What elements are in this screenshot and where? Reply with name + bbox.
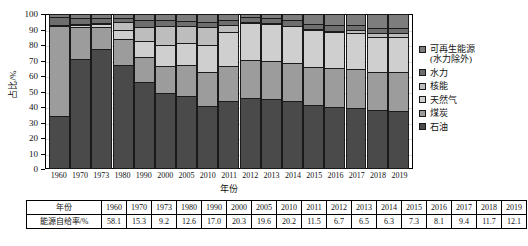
x-axis-tick-label: 2005 xyxy=(177,171,196,180)
x-axis-tick-label: 2017 xyxy=(347,171,366,180)
y-axis-tick-label: 90 xyxy=(29,25,38,34)
bar-segment xyxy=(389,37,408,71)
plot-area xyxy=(45,14,413,169)
bar-segment xyxy=(389,15,408,28)
table-cell: 6.3 xyxy=(377,215,402,229)
bar-segment xyxy=(262,24,281,61)
x-axis-tick-label: 2000 xyxy=(156,171,175,180)
bar-segment xyxy=(156,45,175,66)
legend-item-label: 石油 xyxy=(430,122,448,132)
legend-item-label: 水力 xyxy=(430,68,448,78)
bar-segment xyxy=(219,25,238,32)
bar-segment xyxy=(241,23,260,60)
bar-segment xyxy=(262,61,281,98)
table-cell: 2010 xyxy=(277,201,302,215)
x-axis-title: 年份 xyxy=(45,182,413,195)
bar-segment xyxy=(347,33,366,69)
y-axis-tick-label: 20 xyxy=(29,134,38,143)
bar-segment xyxy=(71,59,90,168)
table-cell: 2016 xyxy=(427,201,452,215)
x-axis-tick-label: 1960 xyxy=(49,171,68,180)
bar-column xyxy=(368,15,387,168)
bar-segment xyxy=(156,93,175,168)
bar-segment xyxy=(156,66,175,94)
bar-segment xyxy=(219,32,238,66)
chart-figure: 1009080706050403020100 占比/% 196019701973… xyxy=(0,0,528,246)
table-cell: 20.3 xyxy=(227,215,252,229)
bar-segment xyxy=(347,108,366,168)
table-row: 年份19601970197319801990200020052010201120… xyxy=(27,201,527,215)
bar-segment xyxy=(114,65,133,168)
bar-segment xyxy=(304,30,323,67)
bar-segment xyxy=(114,39,133,65)
bar-segment xyxy=(368,37,387,71)
y-axis-tick-mark xyxy=(41,169,45,170)
table-cell: 2000 xyxy=(227,201,252,215)
table-cell: 2011 xyxy=(302,201,327,215)
table-cell: 2018 xyxy=(477,201,502,215)
bar-segment xyxy=(114,30,133,39)
bar-column xyxy=(114,15,133,168)
table-cell: 20.2 xyxy=(277,215,302,229)
bar-segment xyxy=(198,15,217,22)
bar-column xyxy=(241,15,260,168)
legend-swatch-icon xyxy=(419,83,426,90)
table-cell: 19.6 xyxy=(252,215,277,229)
table-cell: 1960 xyxy=(102,201,127,215)
bar-column xyxy=(50,15,69,168)
legend-swatch-icon xyxy=(419,123,426,130)
table-cell: 11.5 xyxy=(302,215,327,229)
bar-column xyxy=(92,15,111,168)
bar-segment xyxy=(304,105,323,168)
table-cell: 11.7 xyxy=(477,215,502,229)
x-axis-tick-label: 2014 xyxy=(283,171,302,180)
legend-item-label: 煤炭 xyxy=(430,108,448,118)
x-axis-tick-label: 1980 xyxy=(113,171,132,180)
legend-item-label: 可再生能源 (水力除外) xyxy=(430,44,475,64)
x-axis-tick-label: 1973 xyxy=(92,171,111,180)
legend-item-label: 天然气 xyxy=(430,95,457,105)
legend-item: 石油 xyxy=(419,122,527,132)
y-axis-tick-label: 100 xyxy=(25,10,39,19)
x-axis-tick-label: 2019 xyxy=(390,171,409,180)
x-axis-tick-label: 2011 xyxy=(219,171,238,180)
legend-item: 煤炭 xyxy=(419,108,527,118)
x-axis-tick-label: 2015 xyxy=(305,171,324,180)
bar-segment xyxy=(304,15,323,24)
y-axis-tick-label: 30 xyxy=(29,118,38,127)
y-axis-tick-label: 0 xyxy=(34,165,39,174)
legend-swatch-icon xyxy=(419,46,426,53)
bar-segment xyxy=(262,99,281,168)
table-row-header: 能源自给率/% xyxy=(27,215,102,229)
bar-column xyxy=(156,15,175,168)
table-row-header: 年份 xyxy=(27,201,102,215)
legend-item: 可再生能源 (水力除外) xyxy=(419,44,527,64)
table-cell: 58.1 xyxy=(102,215,127,229)
bar-segment xyxy=(368,110,387,168)
y-axis-tick-label: 70 xyxy=(29,56,38,65)
x-axis-tick-label: 2018 xyxy=(369,171,388,180)
bar-segment xyxy=(198,106,217,168)
x-axis-tick-label: 2013 xyxy=(262,171,281,180)
legend-swatch-icon xyxy=(419,110,426,117)
y-axis-tick-label: 40 xyxy=(29,103,38,112)
legend: 可再生能源 (水力除外)水力核能天然气煤炭石油 xyxy=(419,44,527,135)
y-axis-tick-label: 80 xyxy=(29,41,38,50)
bar-column xyxy=(198,15,217,168)
table-cell: 9.2 xyxy=(152,215,177,229)
table-row: 能源自给率/%58.115.39.212.617.020.319.620.211… xyxy=(27,215,527,229)
legend-item: 核能 xyxy=(419,81,527,91)
bar-segment xyxy=(283,63,302,101)
bar-column xyxy=(177,15,196,168)
bar-segment xyxy=(325,68,344,107)
table-cell: 8.1 xyxy=(427,215,452,229)
bar-segment xyxy=(135,27,154,42)
table-cell: 1990 xyxy=(202,201,227,215)
table-cell: 2017 xyxy=(452,201,477,215)
bar-segment xyxy=(50,116,69,168)
bar-segment xyxy=(368,15,387,28)
bar-column xyxy=(304,15,323,168)
table-cell: 7.3 xyxy=(402,215,427,229)
table-cell: 12.1 xyxy=(502,215,527,229)
bars-container xyxy=(46,15,412,168)
